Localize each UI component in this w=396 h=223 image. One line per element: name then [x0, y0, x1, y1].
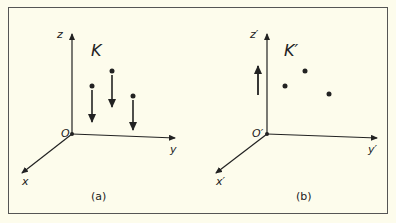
x-prime-axis-label: x′	[215, 175, 226, 188]
origin-label: O	[61, 127, 70, 140]
z-prime-axis-label: z′	[249, 28, 259, 41]
figure-canvas: z K O y x (a) z′ K′ O′ y′ x′	[0, 0, 396, 223]
y-prime-axis-label: y′	[367, 143, 378, 156]
particle-2	[303, 69, 308, 74]
z-axis-label: z	[56, 28, 63, 41]
particle-3	[327, 92, 332, 97]
particle-3	[131, 94, 136, 131]
frame-label-k: K	[91, 41, 103, 60]
caption-b: (b)	[296, 190, 312, 203]
origin-prime-label: O′	[252, 127, 264, 140]
y-axis	[72, 134, 175, 138]
y-axis-label: y	[169, 143, 177, 156]
panel-a: z K O y x (a)	[21, 28, 177, 203]
y-prime-axis	[267, 134, 377, 138]
frame-label-k-prime: K′	[284, 41, 298, 60]
x-axis-label: x	[21, 175, 29, 188]
particle-2	[110, 69, 115, 108]
panel-b: z′ K′ O′ y′ x′ (b)	[215, 28, 378, 203]
particle-1	[90, 84, 95, 123]
particle-1	[283, 84, 288, 89]
caption-a: (a)	[91, 190, 106, 203]
